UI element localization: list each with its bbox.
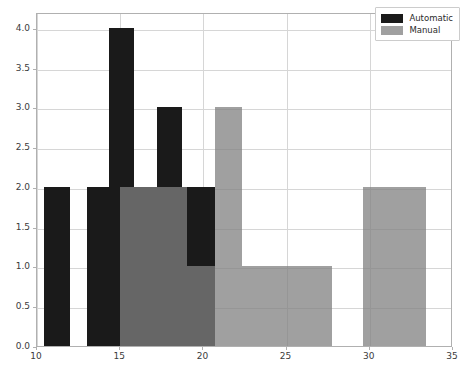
x-tick-mark — [369, 347, 370, 350]
y-tick-label: 2.5 — [4, 142, 30, 152]
legend-swatch-man — [381, 26, 403, 35]
histogram-figure: AutomaticManual 1015202530350.00.51.01.5… — [0, 0, 468, 378]
x-tick-label: 35 — [432, 351, 468, 361]
histogram-bar-man — [277, 266, 332, 346]
y-tick-label: 0.5 — [4, 301, 30, 311]
y-tick-label: 3.5 — [4, 63, 30, 73]
histogram-bar-man — [187, 266, 215, 346]
x-tick-label: 30 — [349, 351, 389, 361]
plot-axes — [36, 13, 452, 347]
legend-swatch-auto — [381, 14, 403, 23]
legend-label: Manual — [409, 26, 440, 35]
y-tick-label: 1.5 — [4, 222, 30, 232]
x-tick-mark — [286, 347, 287, 350]
histogram-bar-man — [215, 107, 242, 346]
x-tick-label: 25 — [266, 351, 306, 361]
legend-entry: Automatic — [381, 12, 453, 24]
y-tick-mark — [33, 148, 36, 149]
y-tick-label: 1.0 — [4, 261, 30, 271]
y-tick-label: 3.0 — [4, 102, 30, 112]
x-tick-mark — [36, 347, 37, 350]
gridline-vertical — [37, 14, 38, 346]
legend-label: Automatic — [409, 14, 453, 23]
plot-area — [37, 14, 451, 346]
gridline-horizontal — [37, 70, 451, 71]
x-tick-label: 15 — [99, 351, 139, 361]
legend-entry: Manual — [381, 24, 453, 36]
y-tick-mark — [33, 108, 36, 109]
chart-legend: AutomaticManual — [375, 7, 460, 41]
x-tick-mark — [202, 347, 203, 350]
x-tick-mark — [119, 347, 120, 350]
y-tick-label: 0.0 — [4, 341, 30, 351]
histogram-bar-man — [242, 266, 277, 346]
y-tick-mark — [33, 29, 36, 30]
y-tick-mark — [33, 188, 36, 189]
histogram-bar-man — [363, 187, 426, 346]
histogram-bar-auto — [44, 187, 71, 346]
y-tick-mark — [33, 69, 36, 70]
x-tick-mark — [452, 347, 453, 350]
y-tick-mark — [33, 228, 36, 229]
y-tick-mark — [33, 267, 36, 268]
y-tick-label: 4.0 — [4, 23, 30, 33]
histogram-bar-man — [120, 187, 187, 346]
gridline-horizontal — [37, 109, 451, 110]
histogram-bar-auto — [87, 187, 109, 346]
x-tick-label: 20 — [182, 351, 222, 361]
gridline-horizontal — [37, 149, 451, 150]
y-tick-label: 2.0 — [4, 182, 30, 192]
x-tick-label: 10 — [16, 351, 56, 361]
y-tick-mark — [33, 307, 36, 308]
y-tick-mark — [33, 347, 36, 348]
